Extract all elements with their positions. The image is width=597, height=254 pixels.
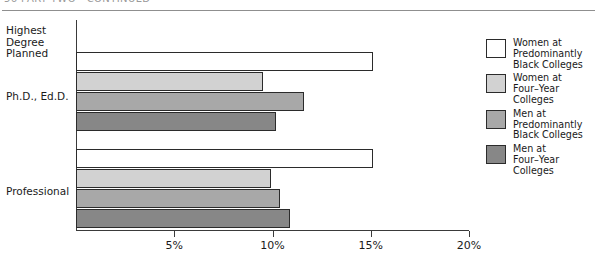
legend-item: Women at Predominantly Black Colleges — [486, 38, 597, 70]
category-label-professional: Professional — [6, 186, 69, 198]
chart-legend: Women at Predominantly Black CollegesWom… — [486, 38, 597, 180]
x-axis-tick — [371, 231, 372, 237]
x-axis-tick-label: 5% — [166, 239, 183, 252]
header-divider — [2, 10, 595, 11]
x-axis-tick-label: 20% — [457, 239, 481, 252]
legend-item: Men at Predominantly Black Colleges — [486, 109, 597, 141]
legend-swatch — [486, 145, 506, 164]
x-axis-tick — [174, 231, 175, 237]
legend-label: Men at Predominantly Black Colleges — [513, 109, 597, 141]
x-axis-tick — [273, 231, 274, 237]
x-axis-tick — [469, 231, 470, 237]
legend-label: Men at Four–Year Colleges — [513, 144, 597, 176]
legend-swatch — [486, 39, 506, 58]
page-header: 56 PART TWO · CONTINUED — [0, 0, 597, 13]
bar — [76, 149, 373, 168]
category-label-phd: Ph.D., Ed.D. — [6, 91, 68, 103]
legend-swatch — [486, 110, 506, 129]
bar — [76, 169, 271, 188]
bar — [76, 112, 276, 131]
legend-swatch — [486, 74, 506, 93]
x-axis-tick-label: 10% — [260, 239, 284, 252]
bar — [76, 52, 373, 71]
legend-item: Men at Four–Year Colleges — [486, 144, 597, 176]
legend-label: Women at Four–Year Colleges — [513, 73, 597, 105]
x-axis-tick-label: 15% — [359, 239, 383, 252]
legend-label: Women at Predominantly Black Colleges — [513, 38, 597, 70]
bar — [76, 209, 290, 228]
bar — [76, 92, 304, 111]
bar — [76, 189, 280, 208]
y-axis-title: Highest Degree Planned — [6, 25, 48, 60]
bar — [76, 72, 263, 91]
page-header-text: 56 PART TWO · CONTINUED — [4, 0, 150, 4]
legend-item: Women at Four–Year Colleges — [486, 73, 597, 105]
